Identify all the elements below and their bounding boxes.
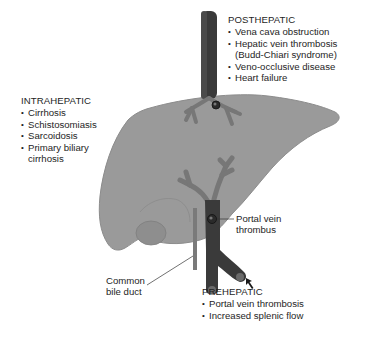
gallbladder [136, 221, 166, 245]
list-item: (Budd-Chiari syndrome) [228, 49, 337, 60]
list-item: Veno-occlusive disease [228, 61, 337, 72]
list-item: Hepatic vein thrombosis [228, 38, 337, 49]
posthepatic-list: Vena cava obstruction Hepatic vein throm… [228, 26, 337, 83]
list-item: Increased splenic flow [202, 310, 304, 321]
bile-duct-leader [147, 256, 193, 285]
intrahepatic-heading: INTRAHEPATIC [21, 95, 97, 106]
posthepatic-label: POSTHEPATIC Vena cava obstruction Hepati… [228, 14, 337, 83]
portal-vein-thrombus-callout: Portal vein thrombus [236, 213, 281, 236]
list-item: Portal vein thrombosis [202, 298, 304, 309]
callout-line: Common [106, 275, 145, 286]
intrahepatic-label: INTRAHEPATIC Cirrhosis Schistosomiasis S… [21, 95, 97, 164]
callout-line: thrombus [236, 224, 281, 235]
list-item: Vena cava obstruction [228, 26, 337, 37]
intrahepatic-list: Cirrhosis Schistosomiasis Sarcoidosis Pr… [21, 107, 97, 164]
list-item: Primary biliary [21, 142, 97, 153]
prehepatic-list: Portal vein thrombosis Increased splenic… [202, 298, 304, 321]
list-item: Cirrhosis [21, 107, 97, 118]
list-item: Schistosomiasis [21, 119, 97, 130]
list-item: cirrhosis [21, 153, 97, 164]
list-item: Sarcoidosis [21, 130, 97, 141]
prehepatic-heading: PREHEPATIC [202, 286, 304, 297]
common-bile-duct-callout: Common bile duct [106, 275, 145, 298]
callout-line: bile duct [106, 286, 145, 297]
common-bile-duct [193, 208, 197, 270]
prehepatic-label: PREHEPATIC Portal vein thrombosis Increa… [202, 286, 304, 321]
posthepatic-heading: POSTHEPATIC [228, 14, 337, 25]
callout-line: Portal vein [236, 213, 281, 224]
list-item: Heart failure [228, 72, 337, 83]
